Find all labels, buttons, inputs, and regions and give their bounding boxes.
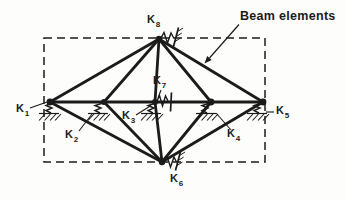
node-right xyxy=(260,99,267,106)
spring-label-k8: K8 xyxy=(147,14,160,25)
spring-label-k2: K2 xyxy=(65,129,78,140)
beam-annotation-arrow xyxy=(205,25,240,64)
annotation-arrow-line xyxy=(210,25,240,59)
node-inner-right xyxy=(208,99,215,106)
leader-k1 xyxy=(30,102,47,108)
diagram-canvas xyxy=(0,0,346,200)
spring-k3-symbol xyxy=(141,103,163,121)
beam-top-right xyxy=(159,39,263,102)
beam-left-top xyxy=(50,39,159,102)
beam-right-bottom xyxy=(162,102,263,162)
spring-label-k6: K6 xyxy=(170,173,183,184)
node-inner-left xyxy=(101,99,107,105)
beam-elements-label: Beam elements xyxy=(240,10,336,23)
beam-spring-diagram: K1 K2 K3 K4 K5 K6 K7 K8 Beam elements xyxy=(0,0,346,200)
spring-label-k4: K4 xyxy=(227,128,240,139)
beam-top-inner-right xyxy=(159,39,211,102)
spring-label-k7: K7 xyxy=(153,75,166,86)
spring-label-k5: K5 xyxy=(276,105,289,116)
spring-label-k3: K3 xyxy=(122,110,135,121)
beam-inner-left-top xyxy=(104,39,159,102)
spring-label-k1: K1 xyxy=(16,103,29,114)
